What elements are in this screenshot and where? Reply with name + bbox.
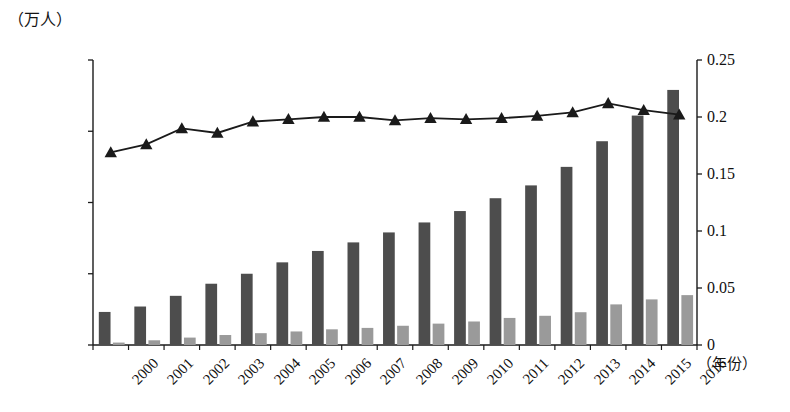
bar-dark — [312, 251, 324, 345]
figure-caption — [120, 400, 680, 412]
bar-light — [681, 295, 693, 345]
line-series-path — [111, 103, 679, 152]
bar-dark — [667, 90, 679, 345]
line-marker-triangle — [176, 122, 188, 133]
chart-figure: （万人） （年份） 05000100001500020000 00.050.10… — [0, 0, 790, 412]
bar-light — [468, 321, 480, 345]
bar-dark — [348, 242, 360, 345]
bar-light — [539, 316, 551, 345]
bar-light — [504, 318, 516, 345]
bar-dark — [596, 141, 608, 345]
bar-dark — [241, 274, 253, 345]
bar-dark — [170, 296, 182, 345]
bar-light — [610, 304, 622, 345]
bar-dark — [419, 222, 431, 345]
bar-light — [362, 328, 374, 345]
bar-light — [148, 340, 160, 345]
bar-light — [433, 324, 445, 345]
bar-dark — [383, 232, 395, 345]
bar-dark — [134, 307, 146, 345]
bar-dark — [525, 185, 537, 345]
bar-light — [291, 331, 303, 345]
bar-dark — [99, 312, 111, 345]
bar-light — [113, 343, 125, 345]
bar-light — [219, 335, 231, 345]
chart-plot-area — [0, 0, 790, 412]
bar-dark — [561, 167, 573, 345]
bar-dark — [205, 284, 217, 345]
line-marker-triangle — [602, 97, 614, 108]
bar-dark — [454, 211, 466, 345]
bar-dark — [490, 198, 502, 345]
bar-light — [326, 329, 338, 345]
bar-dark — [632, 116, 644, 345]
bar-light — [255, 333, 267, 345]
bar-light — [646, 299, 658, 345]
line-marker-triangle — [140, 138, 152, 149]
bar-dark — [276, 262, 288, 345]
bar-light — [575, 312, 587, 345]
bar-light — [184, 338, 196, 345]
bar-light — [397, 326, 409, 345]
